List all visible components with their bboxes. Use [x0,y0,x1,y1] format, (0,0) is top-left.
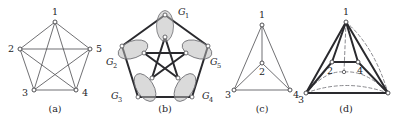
edge-2-4 [20,49,76,90]
group-label-g5-sub: 5 [217,62,221,70]
group-label-g2-sub: 2 [113,62,117,70]
panel-a-edges [20,22,90,90]
vertex-label-1: 1 [52,6,58,17]
vertex-label-3: 3 [298,94,304,105]
vertex-3 [32,88,36,92]
panel-d-solid-edges [306,22,388,93]
vertex-inner-4 [176,76,180,80]
vertex-label-4: 4 [357,65,363,76]
group-label-g5: G 5 [210,56,221,70]
vertex-label-3: 3 [225,89,231,100]
vertex-inner-3 [150,76,154,80]
edge-apex-bottom-left [306,22,346,93]
edge-2-4 [262,63,290,90]
edge-hidden-base-curve [306,86,388,94]
vertex-label-1: 1 [259,9,265,20]
vertex-2 [330,60,334,64]
group-label-g4-sub: 4 [209,96,213,104]
vertex-outer-1 [163,13,167,17]
edge-apex-bottom-right [346,22,388,93]
edge-1-2 [20,22,55,49]
edge-inner-1-3 [152,37,165,78]
panel-b-group-blobs [116,11,215,106]
vertex-label-2: 2 [327,65,333,76]
vertex-center [342,70,345,73]
panel-d-dashed-edges [306,22,388,93]
panel-a-caption: (a) [48,103,61,114]
vertex-outer-5 [206,44,210,48]
vertex-3 [232,88,236,92]
vertex-1 [260,23,264,27]
vertex-1 [344,20,348,24]
vertex-3 [304,91,308,95]
edge-inner-3-5 [152,53,186,78]
group-label-g4: G 4 [202,90,213,104]
vertex-5 [88,47,92,51]
vertex-2 [260,61,264,65]
vertex-bottom-right [386,91,390,95]
edge-1-4 [55,22,76,90]
vertex-label-1: 1 [343,6,349,17]
panel-a-k5-graph: 1 2 3 4 5 (a) [0,0,110,118]
edge-1-3 [234,25,262,90]
edge-1-4 [262,25,290,90]
group-label-g3-sub: 3 [118,96,122,104]
figure-root: 1 2 3 4 5 (a) [0,0,397,118]
vertex-label-4: 4 [82,87,88,98]
vertex-4 [74,88,78,92]
group-label-g1: G 1 [178,6,189,20]
vertex-4 [356,60,360,64]
vertex-label-2: 2 [8,43,14,54]
vertex-4 [288,88,292,92]
group-blob-g2 [116,36,151,63]
panel-b-inner-edges [144,37,186,78]
edge-5-1 [55,22,90,49]
panel-c-caption: (c) [256,103,269,114]
panel-d-vertices [304,20,390,95]
panel-c-planar-k4: 1 2 3 4 (c) [222,0,302,118]
edge-2-3 [20,49,34,90]
panel-b-caption: (b) [158,103,172,114]
panel-c-edges [234,25,290,90]
edge-4-5 [76,49,90,90]
vertex-2 [18,47,22,51]
edge-3-5 [34,49,90,90]
group-label-g3: G 3 [111,90,122,104]
panel-d-tetrahedral-graph: 1 2 4 3 (d) [296,0,397,118]
panel-b-grouped-graph: G 1 G 2 G 3 G 4 G 5 (b) [104,0,226,118]
vertex-outer-3 [136,95,140,99]
vertex-label-2: 2 [259,66,265,77]
group-label-g2: G 2 [106,56,117,70]
group-label-g1-sub: 1 [185,12,189,20]
vertex-inner-1 [163,35,167,39]
vertex-label-5: 5 [96,43,102,54]
vertex-outer-2 [120,44,124,48]
vertex-inner-2 [142,51,146,55]
edge-inner-2-4 [144,53,178,78]
edge-1-3 [34,22,55,90]
panel-d-caption: (d) [339,103,353,114]
edge-inner-1-4 [165,37,178,78]
vertex-label-3: 3 [22,87,28,98]
edge-2-3 [234,63,262,90]
vertex-1 [53,20,57,24]
vertex-inner-5 [184,51,188,55]
vertex-outer-4 [190,95,194,99]
